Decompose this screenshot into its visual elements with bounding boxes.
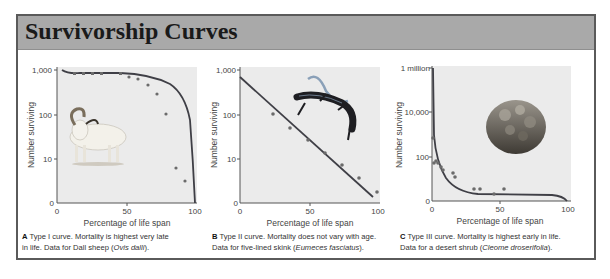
species-name: Cleome droserifolia <box>482 243 547 252</box>
ytick-100: 100 <box>39 111 53 120</box>
xtick-100: 100 <box>371 207 385 216</box>
xtick-50: 50 <box>306 207 315 216</box>
ytick-10: 10 <box>43 155 52 164</box>
xtick-0: 0 <box>55 207 60 216</box>
caption-line2: Data for a desert shrub ( <box>400 243 482 252</box>
caption-letter: C <box>400 232 405 241</box>
ytick-100: 100 <box>416 153 430 162</box>
x-axis-label: Percentage of life span <box>267 218 354 228</box>
caption-letter: B <box>212 232 217 241</box>
chart-a: 1,000 100 10 0 0 50 100 Percentage of li… <box>26 66 202 228</box>
ytick-1000: 1,000 <box>216 66 237 75</box>
caption-line2: in life. Data for Dall sheep ( <box>22 243 114 252</box>
caption-end: ). <box>144 243 149 252</box>
caption-line2: Data for five-lined skink ( <box>212 243 296 252</box>
ytick-100: 100 <box>223 111 237 120</box>
caption-end: ). <box>359 243 364 252</box>
y-axis-label: Number surviving <box>209 102 219 168</box>
species-name: Eumeces fasciatus <box>296 243 360 252</box>
xtick-50: 50 <box>123 207 132 216</box>
xtick-100: 100 <box>561 205 575 214</box>
chart-c: 1 million 10,000 100 0 0 50 100 Percenta… <box>394 64 575 226</box>
xtick-0: 0 <box>430 205 435 214</box>
desert-shrub-illustration <box>486 100 546 154</box>
x-axis-label: Percentage of life span <box>457 216 544 226</box>
caption-line1: Type III curve. Mortality is highest ear… <box>407 232 560 241</box>
x-axis-label: Percentage of life span <box>84 218 171 228</box>
xtick-50: 50 <box>496 205 505 214</box>
species-name: Ovis dalli <box>114 243 145 252</box>
caption-a: A Type I curve. Mortality is highest ver… <box>22 232 207 253</box>
ytick-1-million: 1 million <box>401 64 430 73</box>
caption-letter: A <box>22 232 27 241</box>
caption-end: ). <box>548 243 553 252</box>
ytick-1000: 1,000 <box>32 66 53 75</box>
xtick-0: 0 <box>238 207 243 216</box>
plot-area <box>240 67 380 203</box>
y-axis-label: Number surviving <box>394 102 404 168</box>
y-axis-label: Number surviving <box>26 102 36 168</box>
caption-line1: Type II curve. Mortality does not vary w… <box>219 232 376 241</box>
caption-c: C Type III curve. Mortality is highest e… <box>400 232 590 253</box>
caption-b: B Type II curve. Mortality does not vary… <box>212 232 397 253</box>
ytick-10: 10 <box>227 155 236 164</box>
caption-line1: Type I curve. Mortality is highest very … <box>29 232 168 241</box>
xtick-100: 100 <box>188 207 202 216</box>
ytick-10000: 10,000 <box>405 108 430 117</box>
chart-b: 1,000 100 10 0 0 50 100 Percentage of li… <box>209 66 385 228</box>
